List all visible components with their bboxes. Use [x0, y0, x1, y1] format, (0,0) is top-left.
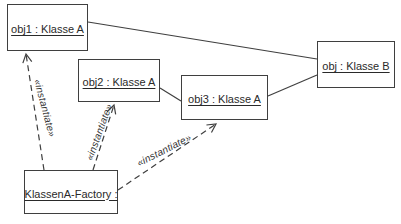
object-label-obj3: obj3 : Klasse A	[188, 90, 261, 105]
association-obj2-obj3	[160, 88, 181, 101]
object-label-objB: obj : Klasse B	[322, 57, 389, 72]
object-box-objB: obj : Klasse B	[317, 41, 395, 88]
object-box-obj3: obj3 : Klasse A	[181, 75, 268, 120]
object-box-factory: KlassenA-Factory :	[24, 170, 118, 214]
object-box-obj2: obj2 : Klasse A	[78, 59, 160, 102]
association-obj1-objB	[88, 22, 317, 59]
uml-object-diagram: obj1 : Klasse A obj2 : Klasse A obj3 : K…	[0, 0, 401, 224]
object-label-factory: KlassenA-Factory :	[25, 185, 118, 200]
object-box-obj1: obj1 : Klasse A	[7, 4, 88, 51]
association-obj3-objB	[268, 75, 317, 96]
object-label-obj1: obj1 : Klasse A	[11, 20, 84, 35]
object-label-obj2: obj2 : Klasse A	[83, 73, 156, 88]
instantiate-arrow-factory-obj3	[118, 124, 216, 190]
